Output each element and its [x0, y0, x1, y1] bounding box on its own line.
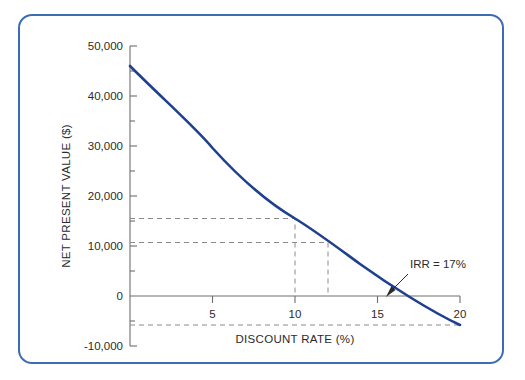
y-tick-label-20000: 20,000 [88, 190, 123, 202]
x-tick-label-15: 15 [371, 308, 384, 320]
figure-frame: 50,000 40,000 30,000 20,000 10,000 0 -10… [18, 14, 504, 364]
x-axis-ticks [213, 296, 461, 303]
guide-npv-at-12 [130, 243, 328, 297]
y-axis-title: NET PRESENT VALUE ($) [60, 124, 72, 268]
x-tick-label-5: 5 [209, 308, 215, 320]
y-tick-label-30000: 30,000 [88, 140, 123, 152]
npv-curve [130, 66, 460, 325]
irr-annotation-label: IRR = 17% [410, 258, 466, 270]
y-tick-label-40000: 40,000 [88, 90, 123, 102]
x-axis-title: DISCOUNT RATE (%) [235, 333, 354, 345]
y-tick-label-50000: 50,000 [88, 40, 123, 52]
y-axis-major-ticks [130, 46, 137, 346]
y-tick-label-0: 0 [117, 290, 123, 302]
x-tick-label-20: 20 [454, 308, 467, 320]
y-tick-label-10000: 10,000 [88, 240, 123, 252]
npv-profile-chart: 50,000 40,000 30,000 20,000 10,000 0 -10… [20, 16, 506, 366]
y-tick-label-minus-10000: -10,000 [84, 340, 123, 352]
guide-npv-at-10 [130, 219, 295, 297]
x-tick-label-10: 10 [289, 308, 302, 320]
